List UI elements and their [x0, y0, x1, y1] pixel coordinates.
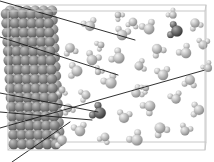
oxygen-atom [145, 101, 156, 112]
oxygen-atom [114, 53, 125, 64]
substrate-atom [46, 65, 56, 75]
oxygen-atom [57, 135, 67, 145]
crystalline-substrate-front-layer [1, 9, 61, 150]
oxygen-atom [199, 41, 208, 50]
substrate-atom [44, 37, 54, 47]
oxygen-atom [59, 87, 66, 94]
oxygen-atom [135, 62, 144, 71]
oxygen-atom [185, 75, 195, 85]
oxygen-atom [98, 42, 105, 49]
highlighted-oxygen-atom [171, 25, 182, 36]
molecular-scene-canvas [0, 0, 214, 162]
oxygen-atom [82, 91, 91, 100]
oxygen-atom [152, 44, 162, 54]
oxygen-atom [155, 123, 166, 134]
oxygen-atom [171, 94, 180, 103]
oxygen-atom [181, 127, 190, 136]
oxygen-atom [144, 24, 155, 35]
oxygen-atom [181, 48, 191, 58]
substrate-atom [49, 120, 59, 130]
oxygen-atom [95, 69, 101, 75]
oxygen-atom [115, 12, 121, 18]
oxygen-atom [105, 77, 116, 88]
oxygen-atom [65, 43, 75, 53]
oxygen-atom [129, 18, 137, 26]
highlighted-oxygen-atom [94, 107, 106, 119]
oxygen-atom [87, 55, 98, 66]
oxygen-atom [158, 70, 168, 80]
oxygen-atom [190, 18, 199, 27]
substrate-atom [44, 27, 54, 37]
oxygen-atom [119, 113, 129, 123]
oxygen-atom [194, 105, 204, 115]
simulation-snapshot [0, 0, 214, 162]
substrate-atom [46, 55, 56, 65]
oxygen-atom [72, 66, 83, 77]
substrate-atom [47, 74, 57, 84]
substrate-atom [43, 18, 53, 28]
oxygen-atom [131, 134, 142, 145]
oxygen-atom [101, 133, 110, 142]
substrate-atom [47, 83, 57, 93]
oxygen-atom [75, 126, 85, 136]
oxygen-atom [169, 11, 176, 18]
substrate-atom [45, 46, 55, 56]
